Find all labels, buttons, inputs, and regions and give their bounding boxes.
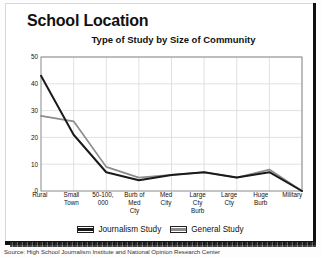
scan-artifact-bar — [10, 242, 316, 247]
chart-title-text: Type of Study by Size of Community — [66, 34, 256, 45]
line-chart-svg: 01020304050 — [24, 54, 304, 193]
y-axis-tick: 50 — [31, 54, 39, 60]
chart-title: Type of Study by Size of Community — [5, 34, 316, 45]
x-axis-label: Large Cty Burb — [182, 191, 214, 227]
y-axis-tick: 30 — [31, 107, 39, 114]
y-axis-tick: 40 — [31, 80, 39, 87]
page-title: School Location — [27, 12, 148, 30]
legend-swatch-icon — [77, 226, 94, 233]
y-axis-tick: 20 — [31, 134, 39, 141]
legend-swatch-icon — [170, 226, 187, 233]
legend-label: General Study — [191, 225, 243, 234]
legend-item-general-study: General Study — [170, 225, 243, 234]
x-axis-label: Rural — [24, 191, 56, 227]
x-axis-label: Military — [277, 191, 309, 227]
x-axis-label: Med City — [150, 191, 182, 227]
x-axis-label: Small Town — [56, 191, 88, 227]
x-axis-label: Burb of Med Cty — [119, 191, 151, 227]
figure-frame: School Location Type of Study by Size of… — [5, 3, 316, 245]
legend-item-journalism-study: Journalism Study — [77, 225, 161, 234]
chart-figure: School Location Type of Study by Size of… — [0, 0, 321, 258]
y-axis-tick: 10 — [31, 161, 39, 168]
x-axis-label: 50-100, 000 — [87, 191, 119, 227]
plot-area: 01020304050 — [24, 54, 304, 193]
chart-legend: Journalism StudyGeneral Study — [5, 225, 316, 234]
x-axis-labels: RuralSmall Town50-100, 000Burb of Med Ct… — [24, 191, 308, 227]
x-axis-label: Huge Burb — [245, 191, 277, 227]
x-axis-label: Large Cty — [213, 191, 245, 227]
legend-label: Journalism Study — [98, 225, 161, 234]
source-note: Source: High School Journalism Institute… — [4, 248, 220, 255]
